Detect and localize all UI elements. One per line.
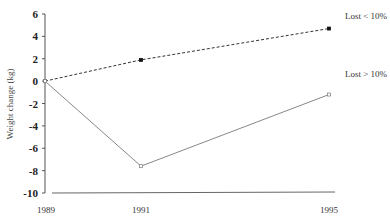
data-point-marker [140, 58, 143, 61]
x-axis-baseline [52, 192, 335, 193]
y-tick-label: -2 [29, 98, 39, 110]
legend-label-0: Lost < 10% [345, 11, 388, 21]
series-line-0 [45, 29, 329, 82]
series-line-1 [45, 81, 329, 166]
data-point-marker [328, 27, 331, 30]
weight-change-chart: 6420-2-4-6-8-10 198919911995 Weight chan… [0, 0, 390, 223]
y-tick-label: -8 [29, 165, 39, 177]
y-tick-label: 0 [33, 75, 39, 87]
data-point-marker [328, 93, 331, 96]
x-tick-label: 1989 [37, 205, 56, 215]
y-tick-label: 2 [33, 53, 39, 65]
y-tick-label: 4 [33, 30, 39, 42]
data-point-marker [140, 165, 143, 168]
x-tick-labels: 198919911995 [37, 205, 339, 215]
x-tick-label: 1991 [132, 205, 150, 215]
legend-label-1: Lost > 10% [345, 69, 388, 79]
y-tick-label: -4 [29, 120, 39, 132]
y-tick-label: -6 [29, 142, 39, 154]
data-point-marker [44, 80, 47, 83]
x-tick-label: 1995 [320, 205, 339, 215]
y-tick-label: -10 [23, 187, 38, 199]
inline-legend: Lost < 10%Lost > 10% [345, 11, 388, 79]
y-ticks: 6420-2-4-6-8-10 [23, 8, 45, 199]
series-group [44, 27, 331, 168]
y-tick-label: 6 [33, 8, 39, 20]
y-axis: 6420-2-4-6-8-10 [23, 8, 45, 199]
y-axis-label: Weight change (kg) [5, 69, 15, 140]
